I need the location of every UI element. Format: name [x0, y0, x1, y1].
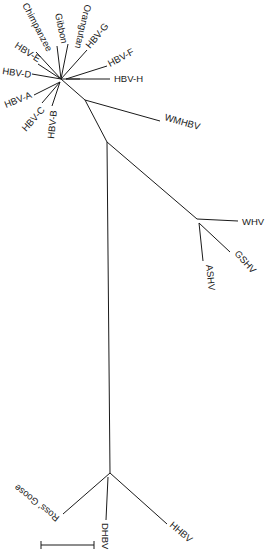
branch-dhbv: [106, 477, 108, 520]
branch-wmhbv: [85, 100, 160, 121]
branch-hub-to-wmhbv-node: [61, 79, 85, 100]
branch-ashv: [199, 223, 203, 261]
branch-to-avian-node: [107, 142, 110, 473]
label-hbv-f: HBV-F: [106, 46, 136, 69]
branch-to-rodent-node: [107, 142, 197, 219]
label-gibbon: Gibbon: [53, 12, 70, 44]
label-hbv-a: HBV-A: [3, 89, 34, 110]
label-hbv-b: HBV-B: [45, 110, 59, 140]
label-dhbv: DHBV: [100, 523, 111, 550]
label-wmhbv: WMHBV: [163, 111, 202, 132]
branch-gibbon: [57, 46, 61, 79]
label-hbv-e: HBV-E: [13, 39, 43, 64]
branch-gshv: [199, 223, 230, 252]
orthohepadnavirus-primate-clade: [32, 44, 110, 106]
label-hhbv: HHBV: [168, 519, 196, 545]
branch-wmhbv-node-to-central: [85, 100, 107, 142]
label-whv: WHV: [242, 216, 265, 227]
label-hbv-h: HBV-H: [114, 73, 143, 84]
branch-hhbv: [110, 473, 167, 524]
phylogenetic-tree: Chimpanzee Gibbon Orangutan HBV-G HBV-F …: [0, 0, 267, 550]
branch-hbv-g: [61, 50, 87, 79]
scale-bar: [41, 541, 94, 549]
label-hbv-c: HBV-C: [19, 104, 47, 133]
branch-hbv-c: [42, 82, 60, 103]
branch-ross-goose: [63, 473, 110, 514]
label-ashv: ASHV: [204, 264, 218, 292]
label-hbv-d: HBV-D: [2, 65, 32, 80]
label-ross-goose: Ross' Goose: [12, 482, 61, 524]
label-gshv: GSHV: [233, 248, 260, 276]
branch-orangutan: [61, 44, 68, 79]
branch-hbv-f: [66, 66, 107, 79]
branch-whv: [197, 219, 238, 221]
